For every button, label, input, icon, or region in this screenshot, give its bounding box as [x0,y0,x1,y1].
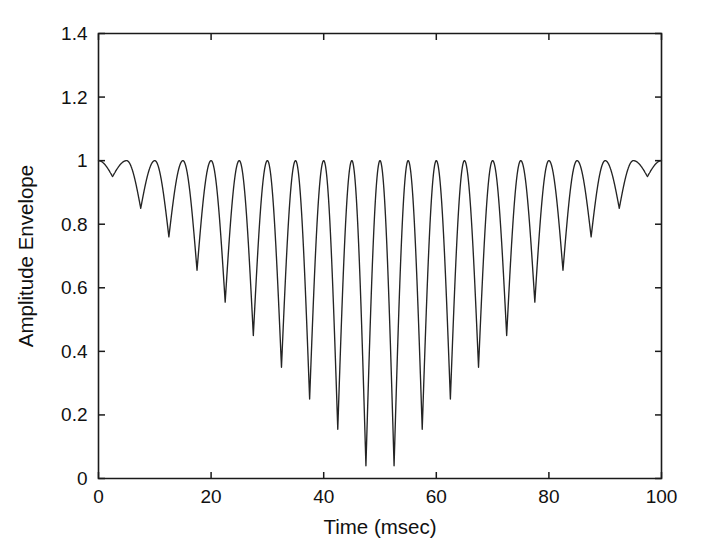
y-tick-label: 0.8 [61,214,87,235]
y-tick-label: 0.2 [61,404,87,425]
x-tick-label: 0 [93,486,104,507]
chart-figure: 020406080100 00.20.40.60.811.21.4 Time (… [0,0,713,557]
x-tick-label: 20 [201,486,222,507]
y-tick-label: 1 [77,150,88,171]
x-tick-label: 80 [538,486,559,507]
x-tick-label: 40 [313,486,334,507]
y-tick-label: 0.6 [61,277,87,298]
x-tick-label: 100 [646,486,678,507]
amplitude-envelope-chart: 020406080100 00.20.40.60.811.21.4 Time (… [0,0,713,557]
x-axis-label: Time (msec) [323,515,436,538]
y-tick-label: 1.2 [61,87,87,108]
y-axis-label: Amplitude Envelope [14,165,37,347]
y-tick-label: 0.4 [61,341,88,362]
chart-background [0,0,713,557]
y-tick-label: 1.4 [61,23,88,44]
y-tick-label: 0 [77,468,88,489]
x-tick-label: 60 [426,486,447,507]
